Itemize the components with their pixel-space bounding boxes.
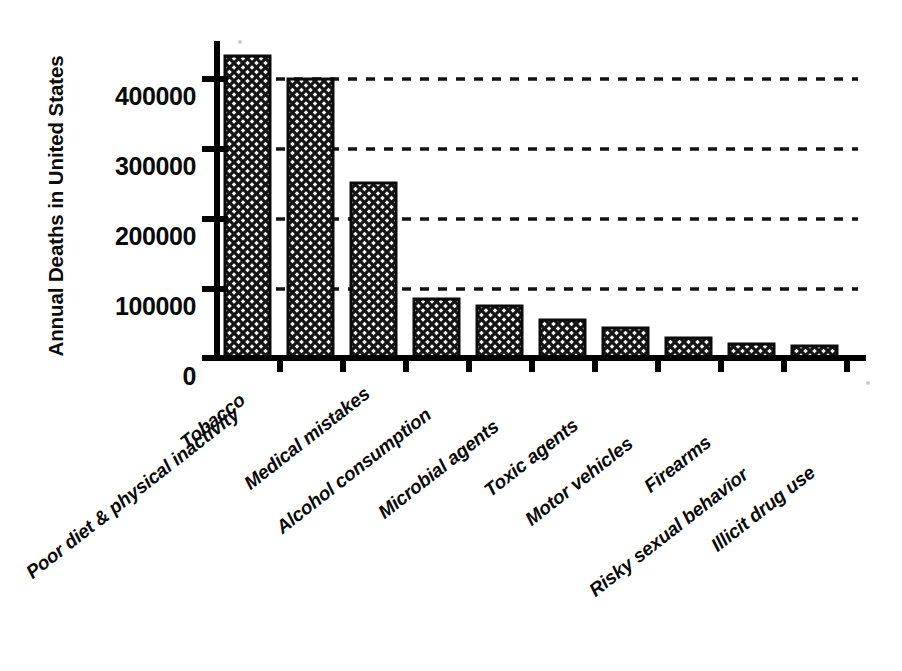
- plot-area: [0, 0, 902, 671]
- bar-series: [225, 56, 837, 358]
- bar-alcohol-consumption: [414, 299, 459, 358]
- bar-microbial-agents: [477, 306, 522, 358]
- scan-speck: [238, 40, 242, 44]
- scan-speck: [866, 381, 870, 385]
- bar-motor-vehicles: [603, 328, 648, 358]
- bar-chart-figure: Annual Deaths in United States 0 100000 …: [0, 0, 902, 671]
- bar-medical-mistakes: [351, 183, 396, 358]
- bar-tobacco: [225, 56, 270, 358]
- bar-toxic-agents: [540, 320, 585, 358]
- bar-poor-diet: [288, 79, 333, 358]
